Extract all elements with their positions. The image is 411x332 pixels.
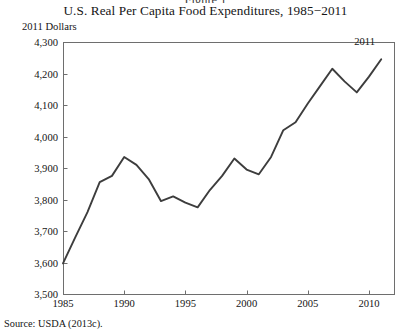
figure-container: Figure 1 U.S. Real Per Capita Food Expen… — [0, 0, 411, 332]
y-axis-tick-label: 4,300 — [34, 37, 58, 48]
y-axis-tick-label: 4,200 — [34, 68, 58, 79]
x-axis-tick-label: 2000 — [236, 298, 257, 309]
x-axis-tick-label: 1995 — [175, 298, 196, 309]
x-axis-tick-label: 1985 — [52, 298, 73, 309]
endpoint-annotation-2011: 2011 — [354, 36, 375, 47]
x-axis-tick-label: 2010 — [358, 298, 379, 309]
y-axis-tick-label: 3,700 — [34, 226, 58, 237]
line-chart-plot — [0, 0, 411, 332]
y-axis-tick-label: 4,100 — [34, 100, 58, 111]
y-axis-tick-label: 3,600 — [34, 257, 58, 268]
x-axis-tick-label: 2005 — [297, 298, 318, 309]
y-axis-tick-label: 3,900 — [34, 163, 58, 174]
y-axis-tick-label: 4,000 — [34, 131, 58, 142]
y-axis-tick-label: 3,800 — [34, 194, 58, 205]
source-note: Source: USDA (2013c). — [4, 318, 103, 329]
x-axis-tick-label: 1990 — [114, 298, 135, 309]
